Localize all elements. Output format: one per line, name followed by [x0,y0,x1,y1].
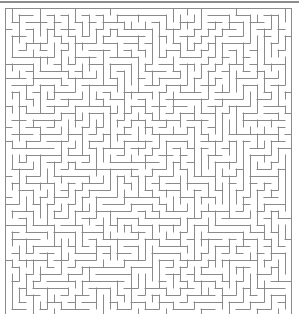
maze-page [0,0,299,317]
maze-grid [5,8,292,314]
maze-container [5,8,292,314]
horizontal-rule [0,1,299,3]
